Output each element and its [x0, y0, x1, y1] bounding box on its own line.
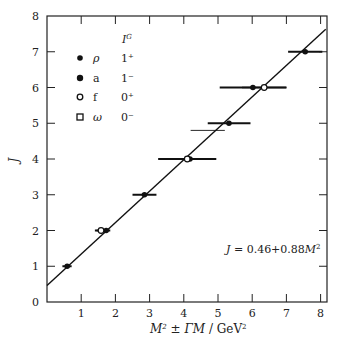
x-tick-label: 5 — [215, 307, 222, 320]
filled-circle-marker — [226, 120, 232, 126]
legend-particle: a — [93, 72, 100, 85]
y-tick-label: 4 — [32, 153, 39, 166]
y-tick-label: 2 — [32, 225, 39, 238]
x-tick-label: 4 — [180, 307, 187, 320]
x-tick-label: 3 — [146, 307, 153, 320]
y-axis-title: J — [7, 156, 21, 165]
legend: IG ρ1⁺a1⁻f0⁺ω0⁻ — [77, 33, 134, 124]
filled-circle-marker — [64, 263, 70, 269]
legend-ig: 0⁻ — [121, 111, 134, 124]
legend-header-sup: G — [126, 33, 132, 41]
y-tick-label: 1 — [32, 260, 39, 273]
fit-equation: J = 0.46+0.88M2 — [224, 243, 321, 256]
legend-filled-circle-icon — [77, 75, 83, 81]
legend-ig: 1⁺ — [121, 52, 134, 65]
regge-trajectory-chart: 12345678012345678 IG ρ1⁺a1⁻f0⁺ω0⁻ J = 0.… — [0, 0, 340, 347]
legend-ig: 1⁻ — [121, 72, 134, 85]
y-tick-label: 6 — [32, 82, 39, 95]
x-tick-label: 2 — [112, 307, 119, 320]
open-circle-marker — [261, 85, 267, 91]
x-axis-title: M2 ± ΓM / GeV2 — [149, 322, 247, 336]
legend-particle: ρ — [92, 52, 100, 65]
legend-particle: ω — [93, 111, 102, 124]
y-tick-label: 7 — [32, 46, 39, 59]
x-tick-label: 7 — [283, 307, 290, 320]
y-tick-label: 5 — [32, 117, 39, 130]
legend-open-circle-icon — [77, 94, 83, 100]
filled-circle-marker — [142, 192, 148, 198]
x-tick-label: 8 — [317, 307, 324, 320]
y-tick-label: 3 — [32, 189, 39, 202]
open-circle-marker — [98, 228, 104, 234]
legend-particle: f — [93, 91, 98, 104]
svg-text:IG: IG — [121, 33, 132, 46]
y-tick-label: 0 — [32, 296, 39, 309]
legend-ig: 0⁺ — [121, 91, 134, 104]
x-tick-label: 6 — [249, 307, 256, 320]
y-tick-label: 8 — [32, 10, 39, 23]
legend-filled-circle-icon — [77, 55, 83, 61]
filled-circle-marker — [302, 49, 308, 55]
filled-circle-marker — [250, 85, 256, 91]
open-circle-marker — [184, 156, 190, 162]
legend-open-square-icon — [77, 114, 83, 120]
x-tick-label: 1 — [78, 307, 85, 320]
